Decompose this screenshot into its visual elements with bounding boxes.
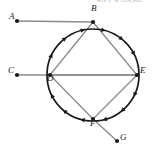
point-label-c: C (8, 66, 14, 75)
point-e (135, 73, 139, 77)
point-label-e: E (140, 66, 146, 75)
chords-group (50, 22, 137, 119)
point-label-b: B (91, 4, 97, 13)
ray-f-g (93, 119, 117, 141)
point-label-g: G (120, 133, 127, 142)
point-b (91, 20, 95, 24)
chord-d-f (50, 75, 93, 119)
chord-f-e (93, 75, 137, 119)
point-label-d: D (47, 74, 54, 83)
ray-a-b (17, 21, 93, 22)
point-c (15, 73, 19, 77)
point-label-f: F (90, 119, 96, 128)
point-g (115, 139, 119, 143)
diagram-screenshot: ANY A GAME ABCDEFG (0, 0, 154, 155)
point-label-a: A (9, 12, 15, 21)
point-a (15, 19, 19, 23)
geometry-figure (0, 0, 154, 155)
